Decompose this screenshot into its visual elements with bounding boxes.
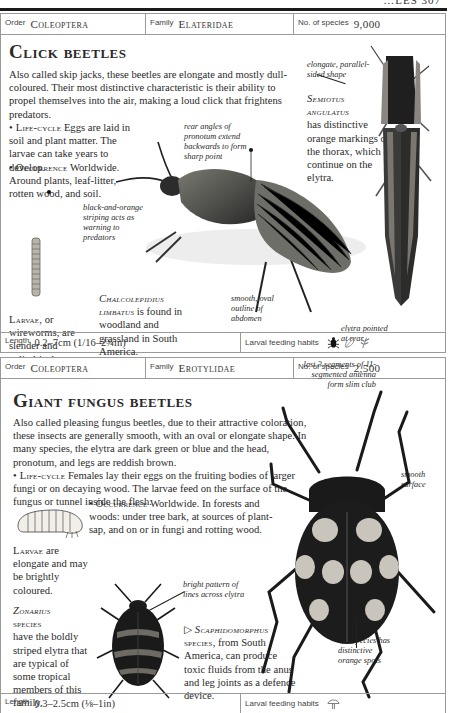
chalcolepidius-beetle-illustration [106,142,356,317]
species-name-suffix: species [184,637,213,648]
family-cell: Family Elateridae [146,14,294,34]
length-label: Length [5,336,29,345]
intro-text: Also called skip jacks, these beetles ar… [9,68,305,121]
length-cell: Length 0.2–7cm (1/16–2¾in) [1,333,241,352]
species-label: No. of species [298,18,349,27]
beetle-icon [327,336,340,349]
length-value: 0.2–7cm (1/16–2¾in) [34,337,125,348]
order-label: Order [5,362,25,371]
footer-bar: Length 0.3–2.5cm (⅛–1in) Larval feeding … [1,693,445,713]
running-header-text: …LES 307 [383,0,441,6]
leaf-icon [343,336,356,349]
mushroom-icon [327,697,340,710]
entry-giant-fungus-beetles: Order Coleoptera Family Erotylidae No. o… [0,357,446,713]
occurrence-label: Occurrence [9,162,67,173]
habits-cell: Larval feeding habits [241,694,445,713]
occurrence-paragraph: Occurrence Worldwide. In forests and woo… [89,497,274,537]
wireworm-larva-illustration [29,236,43,300]
habits-cell: Larval feeding habits [241,333,445,352]
order-label: Order [5,18,25,27]
larvae-caption-label: Larvae [9,314,39,325]
order-cell: Order Coleoptera [1,358,146,378]
family-label: Family [150,362,174,371]
pointer-triangle-icon: ▷ [184,624,195,635]
info-bar: Order Coleoptera Family Elateridae No. o… [1,14,445,35]
header-rule [0,8,447,11]
length-value: 0.3–2.5cm (⅛–1in) [34,698,115,709]
semiotus-beetle-illustration [351,36,446,321]
order-cell: Order Coleoptera [1,14,146,34]
family-label: Family [150,18,174,27]
plant-icon [359,336,372,349]
footer-bar: Length 0.2–7cm (1/16–2¾in) Larval feedin… [1,332,445,352]
lifecycle-label: Life-cycle [9,122,61,133]
order-value: Coleoptera [30,18,88,30]
order-value: Coleoptera [30,362,88,374]
scaphidomorphus-beetle-illustration [249,372,449,702]
length-cell: Length 0.3–2.5cm (⅛–1in) [1,694,241,713]
lifecycle-label: Life-cycle [13,470,65,481]
family-value: Erotylidae [179,362,236,374]
length-label: Length [5,697,29,706]
entry-click-beetles: Order Coleoptera Family Elateridae No. o… [0,13,446,353]
habits-label: Larval feeding habits [245,338,319,347]
habits-label: Larval feeding habits [245,699,319,708]
entry-title: Giant fungus beetles [13,390,193,412]
running-header: …LES 307 [0,0,455,8]
species-name: Zonarius [13,604,88,617]
larvae-caption: Larvae are elongate and may be brightly … [13,544,88,597]
species-name-suffix: species [13,617,88,630]
occurrence-label: Occurrence [89,498,147,509]
annotation-bright-pattern: bright pattern of lines across elytra [183,580,245,600]
fungus-beetle-larva-illustration [14,504,86,540]
species-cell: No. of species 9,000 [294,14,445,34]
species-count: 9,000 [354,18,381,30]
larvae-caption-label: Larvae [13,545,43,556]
entry-title: Click beetles [9,41,126,63]
family-value: Elateridae [179,18,234,30]
